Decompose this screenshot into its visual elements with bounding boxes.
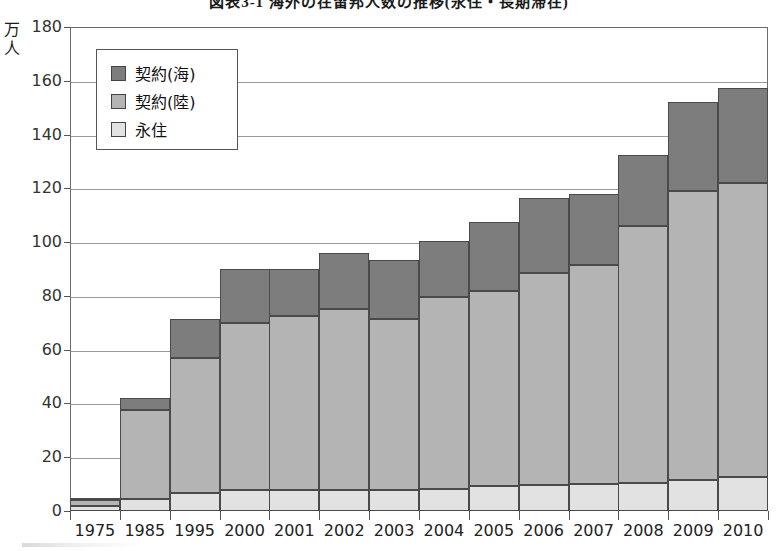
bar-segment-sea xyxy=(120,398,170,410)
x-axis-tick-mark xyxy=(469,511,470,520)
x-axis-tick-mark xyxy=(618,511,619,520)
bar-group xyxy=(718,27,768,511)
legend-swatch-permanent xyxy=(111,122,126,137)
bar-group xyxy=(319,27,369,511)
bar-segment-sea xyxy=(419,241,469,297)
bar-group xyxy=(369,27,419,511)
bar-segment-permanent xyxy=(569,484,619,511)
chart-title: 図表3-1 海外の在留邦人数の推移(永住・長期滞在) xyxy=(0,0,778,11)
x-axis-tick-mark xyxy=(369,511,370,520)
x-axis-tick-mark xyxy=(668,511,669,520)
bar-segment-land xyxy=(519,273,569,485)
x-axis-tick-label: 2002 xyxy=(319,521,369,540)
x-axis-tick-mark xyxy=(319,511,320,520)
bar-segment-sea xyxy=(70,498,120,501)
bar-segment-sea xyxy=(319,253,369,309)
x-axis-tick-mark xyxy=(220,511,221,520)
x-axis-tick-mark xyxy=(768,511,769,520)
chart-legend: 契約(海) 契約(陸) 永住 xyxy=(96,49,238,150)
bar-segment-permanent xyxy=(70,506,120,511)
x-axis-tick-label: 1985 xyxy=(120,521,170,540)
y-axis-tick-label: 100 xyxy=(20,232,62,251)
x-axis-tick-mark xyxy=(269,511,270,520)
y-axis-tick-label: 0 xyxy=(20,501,62,520)
bar-group xyxy=(618,27,668,511)
bar-segment-sea xyxy=(269,269,319,316)
x-axis-tick-mark xyxy=(419,511,420,520)
bar-group xyxy=(269,27,319,511)
x-axis-tick-label: 2005 xyxy=(469,521,519,540)
y-axis-tick-label: 160 xyxy=(20,71,62,90)
x-axis-tick-mark xyxy=(70,511,71,520)
bar-segment-permanent xyxy=(668,480,718,511)
bar-segment-sea xyxy=(170,319,220,358)
scan-artifact xyxy=(22,543,142,547)
bar-segment-sea xyxy=(469,222,519,291)
y-axis-tick-label: 20 xyxy=(20,447,62,466)
bar-segment-sea xyxy=(618,155,668,226)
y-axis-tick-label: 120 xyxy=(20,178,62,197)
bar-group xyxy=(519,27,569,511)
bar-segment-land xyxy=(319,309,369,490)
bar-segment-permanent xyxy=(469,486,519,511)
x-axis-tick-label: 2010 xyxy=(718,521,768,540)
bar-segment-permanent xyxy=(269,490,319,511)
bar-segment-permanent xyxy=(519,485,569,511)
x-axis-tick-label: 1995 xyxy=(170,521,220,540)
x-axis-tick-label: 2007 xyxy=(569,521,619,540)
bar-segment-land xyxy=(170,358,220,493)
x-axis-tick-mark xyxy=(569,511,570,520)
bar-segment-sea xyxy=(668,102,718,191)
bar-segment-permanent xyxy=(120,499,170,511)
bar-segment-permanent xyxy=(369,490,419,511)
x-axis-tick-mark xyxy=(718,511,719,520)
bar-segment-land xyxy=(718,183,768,477)
legend-item-sea: 契約(海) xyxy=(111,59,237,87)
legend-swatch-land xyxy=(111,94,126,109)
legend-swatch-sea xyxy=(111,66,126,81)
x-axis-tick-label: 2004 xyxy=(419,521,469,540)
bar-group xyxy=(569,27,619,511)
legend-label-sea: 契約(海) xyxy=(135,61,195,85)
y-axis-tick-label: 140 xyxy=(20,125,62,144)
x-axis-tick-label: 2003 xyxy=(369,521,419,540)
bar-segment-permanent xyxy=(220,490,270,511)
x-axis-tick-label: 2000 xyxy=(220,521,270,540)
bar-segment-land xyxy=(419,297,469,489)
bar-segment-sea xyxy=(569,194,619,265)
bar-group xyxy=(668,27,718,511)
x-axis-tick-mark xyxy=(170,511,171,520)
bar-segment-land xyxy=(269,316,319,490)
bar-segment-sea xyxy=(220,269,270,323)
bar-segment-sea xyxy=(718,88,768,183)
legend-item-land: 契約(陸) xyxy=(111,87,237,115)
bar-segment-permanent xyxy=(718,477,768,511)
x-axis-tick-label: 2009 xyxy=(668,521,718,540)
x-axis-tick-label: 1975 xyxy=(70,521,120,540)
bar-segment-sea xyxy=(369,260,419,319)
bar-segment-permanent xyxy=(170,493,220,511)
legend-item-permanent: 永住 xyxy=(111,115,237,143)
bar-segment-permanent xyxy=(618,483,668,511)
y-axis-tick-label: 40 xyxy=(20,393,62,412)
y-axis-tick-label: 60 xyxy=(20,340,62,359)
bar-segment-land xyxy=(120,410,170,499)
bar-segment-permanent xyxy=(319,490,369,511)
y-axis-tick-label: 80 xyxy=(20,286,62,305)
bar-segment-sea xyxy=(519,198,569,273)
x-axis-tick-label: 2008 xyxy=(618,521,668,540)
x-axis-tick-mark xyxy=(120,511,121,520)
bar-segment-land xyxy=(70,500,120,505)
bar-segment-land xyxy=(618,226,668,483)
bar-group xyxy=(469,27,519,511)
bar-segment-land xyxy=(369,319,419,490)
x-axis-tick-label: 2001 xyxy=(269,521,319,540)
bar-segment-land xyxy=(220,323,270,490)
y-axis-tick-label: 180 xyxy=(20,17,62,36)
bar-segment-land xyxy=(569,265,619,484)
legend-label-permanent: 永住 xyxy=(135,117,167,141)
legend-label-land: 契約(陸) xyxy=(135,89,195,113)
bar-group xyxy=(419,27,469,511)
bar-segment-land xyxy=(469,291,519,486)
bar-segment-permanent xyxy=(419,489,469,511)
